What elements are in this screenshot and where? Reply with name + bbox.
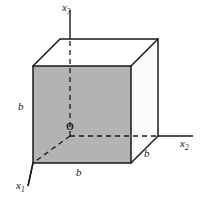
axis-label-x2: x2 — [180, 138, 189, 149]
dimension-label-b-left: b — [18, 101, 24, 112]
axis-x1-line-extension — [28, 163, 33, 186]
axis-label-x3-subscript: 3 — [67, 7, 71, 16]
origin-label: O — [66, 122, 74, 132]
axis-label-x1-subscript: 1 — [21, 185, 25, 194]
axis-label-x1: x1 — [16, 180, 25, 191]
dimension-label-b-bottom: b — [76, 167, 82, 178]
dimension-label-b-right: b — [144, 148, 150, 159]
cube-diagram-svg — [0, 0, 200, 198]
front-face — [33, 66, 131, 163]
axis-label-x3: x3 — [62, 2, 71, 13]
figure-container: x3 x2 x1 O b b b — [0, 0, 200, 198]
axis-label-x2-subscript: 2 — [185, 143, 189, 152]
